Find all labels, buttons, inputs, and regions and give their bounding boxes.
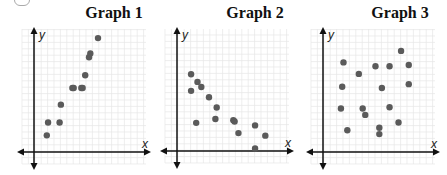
data-point [58, 101, 64, 107]
data-point [213, 104, 219, 110]
arrow-up-icon [174, 27, 181, 34]
data-point [235, 130, 241, 136]
data-point [79, 85, 85, 91]
arrow-up-icon [320, 27, 327, 34]
data-point [376, 124, 382, 130]
y-axis-label: y [38, 28, 46, 42]
x-axis-label: x [430, 137, 438, 151]
data-point [376, 131, 382, 137]
data-point [231, 118, 237, 124]
data-point [398, 48, 404, 54]
data-point [188, 71, 194, 77]
data-point [379, 85, 385, 91]
data-point [338, 105, 344, 111]
data-point [372, 63, 378, 69]
data-point [212, 116, 218, 122]
x-axis-label: x [141, 137, 149, 151]
scatter-plots: yx yx yx [0, 0, 447, 175]
data-point [356, 71, 362, 77]
data-point [252, 122, 258, 128]
data-point [95, 35, 101, 41]
data-point [193, 120, 199, 126]
graph-1: yx [17, 27, 151, 170]
arrow-down-icon [320, 163, 327, 170]
data-point [252, 145, 258, 151]
data-point [406, 62, 412, 68]
arrow-left-icon [17, 149, 24, 156]
graph-2: yx [160, 27, 294, 169]
y-axis-label: y [327, 28, 335, 42]
data-point [56, 119, 62, 125]
data-point [87, 50, 93, 56]
data-point [70, 85, 76, 91]
data-point [340, 59, 346, 65]
arrow-down-icon [174, 162, 181, 169]
data-point [44, 132, 50, 138]
grid [165, 29, 289, 163]
data-point [359, 105, 365, 111]
data-point [262, 132, 268, 138]
data-point [45, 119, 51, 125]
graph-3: yx [306, 27, 440, 170]
data-point [344, 127, 350, 133]
data-point [362, 112, 368, 118]
data-point [188, 88, 194, 94]
grid [22, 29, 146, 164]
data-point [194, 79, 200, 85]
arrow-up-icon [31, 27, 38, 34]
data-point [386, 104, 392, 110]
x-axis-label: x [284, 136, 292, 150]
data-point [198, 84, 204, 90]
data-point [406, 81, 412, 87]
data-point [82, 72, 88, 78]
y-axis-label: y [181, 28, 189, 42]
arrow-left-icon [160, 148, 167, 155]
grid [311, 29, 435, 164]
data-point [206, 94, 212, 100]
data-point [339, 84, 345, 90]
data-point [386, 63, 392, 69]
data-point [395, 119, 401, 125]
arrow-left-icon [306, 149, 313, 156]
arrow-down-icon [31, 163, 38, 170]
